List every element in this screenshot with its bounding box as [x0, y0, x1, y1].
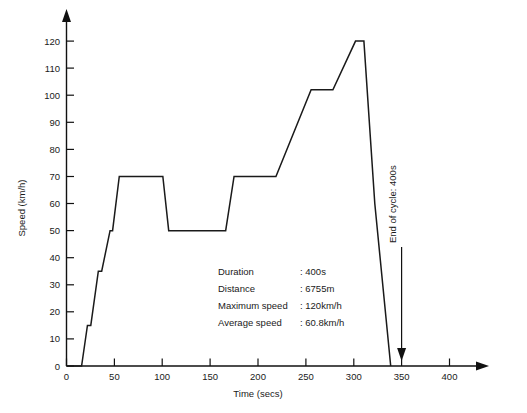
y-tick-label: 10: [49, 333, 60, 344]
info-panel: Duration : 400s Distance : 6755m Maximum…: [218, 266, 344, 328]
x-tick-label: 50: [109, 371, 120, 382]
x-tick-label: 200: [250, 371, 266, 382]
y-tick-label: 20: [49, 306, 60, 317]
x-tick-label: 100: [154, 371, 170, 382]
x-tick-label: 0: [64, 371, 69, 382]
info-row-value: : 400s: [300, 266, 326, 277]
y-tick-label: 110: [45, 63, 60, 74]
x-tick-label: 350: [394, 371, 410, 382]
y-tick-label: 40: [49, 252, 60, 263]
info-row-value: : 6755m: [300, 283, 334, 294]
x-axis-title: Time (secs): [233, 388, 282, 399]
y-axis-ticks: [67, 41, 75, 366]
y-tick-label: 0: [55, 361, 60, 372]
x-axis-ticks: [67, 359, 450, 367]
info-row-label: Duration: [218, 266, 254, 277]
y-tick-label: 120: [44, 36, 60, 47]
x-axis-arrowhead: [476, 362, 489, 371]
x-tick-label: 150: [202, 371, 218, 382]
end-of-cycle-arrowhead: [397, 348, 406, 361]
end-of-cycle-annotation: End of cycle: 400s: [387, 165, 406, 361]
y-tick-label: 70: [49, 171, 60, 182]
y-tick-label: 50: [49, 225, 60, 236]
info-row-label: Average speed: [218, 317, 282, 328]
info-row-value: : 60.8km/h: [300, 317, 344, 328]
speed-profile-chart: 0 10 20 30 40 50 60 70 80 90 100 110 120: [0, 0, 527, 413]
chart-svg: 0 10 20 30 40 50 60 70 80 90 100 110 120: [0, 0, 527, 413]
y-tick-label: 60: [49, 198, 60, 209]
y-axis-tick-labels: 0 10 20 30 40 50 60 70 80 90 100 110 120: [44, 36, 60, 372]
x-tick-label: 250: [298, 371, 314, 382]
y-tick-label: 30: [49, 279, 60, 290]
end-of-cycle-label: End of cycle: 400s: [387, 165, 398, 243]
info-row-value: : 120km/h: [300, 300, 342, 311]
x-tick-label: 300: [346, 371, 362, 382]
y-axis-arrowhead: [62, 9, 71, 22]
y-axis-title: Speed (km/h): [16, 179, 27, 236]
y-tick-label: 100: [44, 90, 60, 101]
info-row-label: Distance: [218, 283, 255, 294]
x-tick-label: 400: [442, 371, 458, 382]
y-tick-label: 80: [49, 144, 60, 155]
y-tick-label: 90: [49, 117, 60, 128]
x-axis-tick-labels: 0 50 100 150 200 250 300 350 400: [64, 371, 458, 382]
info-row-label: Maximum speed: [218, 300, 288, 311]
